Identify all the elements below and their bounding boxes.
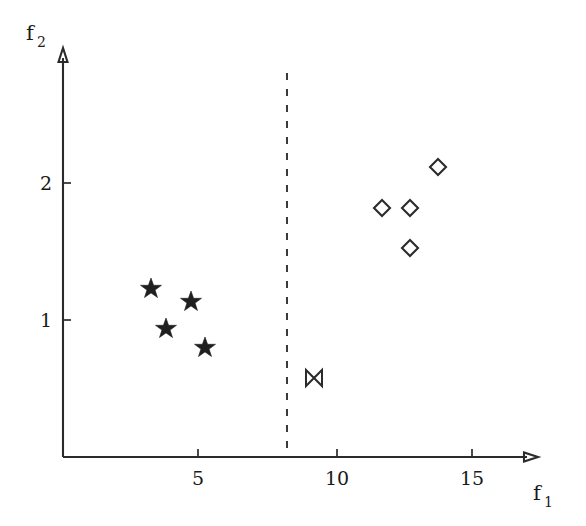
diamond-marker <box>374 200 390 216</box>
y-axis-title-subscript: 2 <box>37 34 46 50</box>
y-tick-label-2: 2 <box>40 172 52 194</box>
data-markers-diamonds <box>374 159 446 256</box>
x-tick-label-5: 5 <box>192 467 204 489</box>
bowtie-marker <box>306 370 322 386</box>
scatter-plot-figure: 5 10 15 1 2 f 2 f 1 <box>0 0 586 526</box>
star-marker <box>195 337 216 357</box>
data-markers-stars <box>141 278 216 357</box>
x-axis-title-subscript: 1 <box>544 494 553 510</box>
x-axis-ticks <box>198 449 472 457</box>
star-marker <box>181 291 202 311</box>
x-axis-title: f 1 <box>533 481 553 510</box>
diamond-marker <box>402 200 418 216</box>
star-marker <box>156 318 177 338</box>
diamond-marker <box>430 159 446 175</box>
star-marker <box>141 278 162 298</box>
plot-canvas: 5 10 15 1 2 f 2 f 1 <box>0 0 586 526</box>
diamond-marker <box>402 240 418 256</box>
x-axis-tick-labels: 5 10 15 <box>192 467 484 489</box>
y-tick-label-1: 1 <box>40 309 52 331</box>
y-axis-title-base: f <box>26 21 36 45</box>
y-axis-ticks <box>63 183 71 320</box>
data-marker-bowtie <box>306 370 322 386</box>
x-tick-label-10: 10 <box>325 467 349 489</box>
axes-group <box>59 48 539 462</box>
y-axis-title: f 2 <box>26 21 46 50</box>
x-tick-label-15: 15 <box>460 467 484 489</box>
y-axis-tick-labels: 1 2 <box>40 172 52 331</box>
x-axis-title-base: f <box>533 481 543 505</box>
